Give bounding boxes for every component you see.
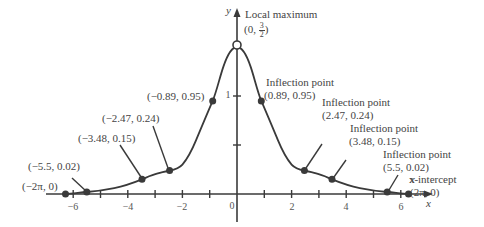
tick-label-0: 0 xyxy=(230,200,235,211)
label-pos-0-89: (0.89, 0.95) xyxy=(264,89,315,101)
point-pos-3-48 xyxy=(329,176,336,183)
y-axis-label: y xyxy=(226,4,231,16)
local-max-open: (0, xyxy=(244,23,259,35)
label-pos-3-48: (3.48, 0.15) xyxy=(349,135,400,147)
inflection-label-0-89: Inflection point xyxy=(266,76,334,88)
point-local-max xyxy=(233,41,241,49)
label-neg-2pi: (−2π, 0) xyxy=(22,180,58,192)
point-neg-2pi xyxy=(62,191,69,198)
label-pos-2-47: (2.47, 0.24) xyxy=(322,109,373,121)
y-axis-arrow-icon xyxy=(234,8,241,17)
point-neg-2-47 xyxy=(166,167,173,174)
local-max-title: Local maximum xyxy=(245,8,317,20)
tick-label-2: 2 xyxy=(290,201,295,212)
inflection-label-5-5: Inflection point xyxy=(383,148,451,160)
x-axis-label: x xyxy=(426,197,431,209)
inflection-label-3-48: Inflection point xyxy=(350,122,418,134)
label-pos-5-5: (5.5, 0.02) xyxy=(383,161,429,173)
label-neg-2-47: (−2.47, 0.24) xyxy=(102,112,160,124)
tick-label-neg6: −6 xyxy=(68,201,79,212)
local-max-close: ) xyxy=(265,23,269,35)
local-max-coords: (0, 32) xyxy=(244,22,268,39)
tick-label-neg4: −4 xyxy=(123,201,134,212)
point-neg-3-48 xyxy=(139,176,146,183)
tick-label-neg2: −2 xyxy=(177,201,188,212)
label-pos-2pi: (2π, 0) xyxy=(410,186,439,198)
point-neg-5-5 xyxy=(83,189,90,196)
point-neg-0-89 xyxy=(209,97,216,104)
tick-label-4: 4 xyxy=(344,201,349,212)
tick-label-y1: 1 xyxy=(226,89,231,100)
inflection-label-2-47: Inflection point xyxy=(322,96,390,108)
label-neg-0-89: (−0.89, 0.95) xyxy=(147,90,205,102)
label-neg-3-48: (−3.48, 0.15) xyxy=(78,132,136,144)
tick-label-6: 6 xyxy=(399,201,404,212)
label-neg-5-5: (−5.5, 0.02) xyxy=(28,160,80,172)
point-pos-5-5 xyxy=(384,189,391,196)
point-pos-2-47 xyxy=(301,167,308,174)
x-intercept-label: xx-intercept xyxy=(410,173,457,185)
